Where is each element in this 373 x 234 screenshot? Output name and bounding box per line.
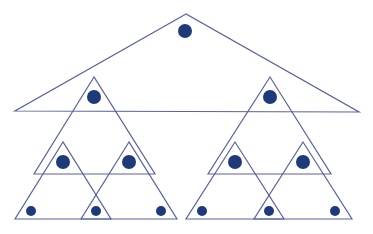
node-dot-root-node	[178, 24, 192, 38]
node-dot-leaf-2	[91, 206, 101, 216]
node-dot-leaf-1	[26, 206, 36, 216]
node-dot-leaf-3	[156, 206, 166, 216]
node-dot-level3-left-b-node	[122, 155, 136, 169]
node-dot-level2-left-node	[87, 90, 101, 104]
diagram-canvas	[0, 0, 373, 234]
nested-triangle-diagram	[0, 0, 373, 234]
node-dot-level3-right-b-node	[296, 155, 310, 169]
node-dot-level3-left-a-node	[56, 155, 70, 169]
node-dot-level3-right-a-node	[228, 155, 242, 169]
node-dot-leaf-6	[330, 206, 340, 216]
triangles-layer	[15, 14, 359, 219]
node-dot-leaf-4	[197, 206, 207, 216]
node-dot-level2-right-node	[263, 90, 277, 104]
dots-layer	[26, 24, 340, 216]
node-dot-leaf-5	[264, 206, 274, 216]
